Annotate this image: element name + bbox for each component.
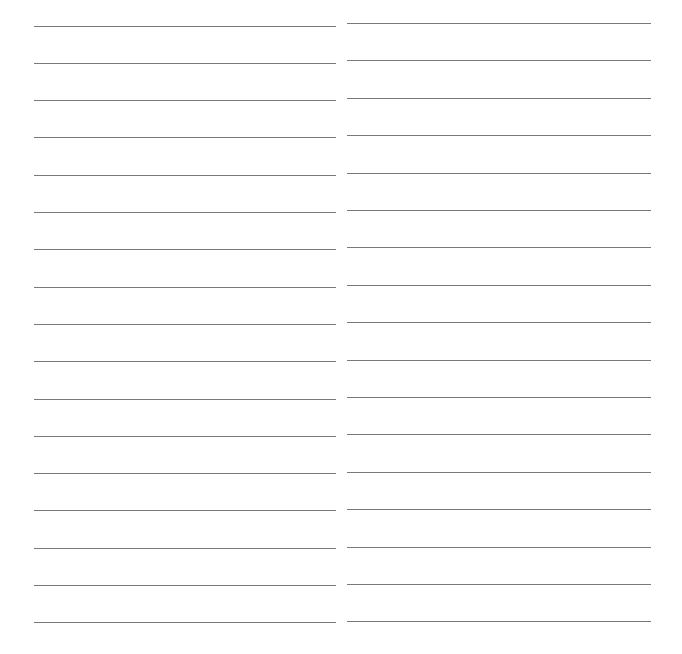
ruled-line: [34, 100, 336, 101]
right-column-rules: [347, 0, 651, 654]
ruled-line: [347, 322, 651, 323]
ruled-line: [347, 547, 651, 548]
ruled-line: [347, 621, 651, 622]
ruled-line: [347, 397, 651, 398]
ruled-line: [347, 247, 651, 248]
ruled-line: [34, 399, 336, 400]
ruled-line: [347, 98, 651, 99]
ruled-line: [347, 285, 651, 286]
ruled-line: [34, 473, 336, 474]
ruled-line: [347, 135, 651, 136]
ruled-line: [34, 548, 336, 549]
ruled-line: [34, 249, 336, 250]
ruled-line: [347, 434, 651, 435]
ruled-line: [34, 26, 336, 27]
ruled-line: [347, 173, 651, 174]
ruled-line: [34, 510, 336, 511]
ruled-line: [34, 622, 336, 623]
ruled-line: [347, 509, 651, 510]
ruled-line: [34, 212, 336, 213]
ruled-line: [34, 585, 336, 586]
ruled-line: [34, 137, 336, 138]
ruled-line: [347, 584, 651, 585]
ruled-line: [34, 324, 336, 325]
ruled-line: [34, 175, 336, 176]
ruled-line: [347, 23, 651, 24]
ruled-line: [347, 360, 651, 361]
ruled-line: [34, 436, 336, 437]
ruled-line: [347, 210, 651, 211]
left-column-rules: [34, 0, 336, 654]
ruled-line: [34, 63, 336, 64]
ruled-line: [347, 472, 651, 473]
ruled-line: [347, 60, 651, 61]
ruled-line: [34, 361, 336, 362]
ruled-line: [34, 287, 336, 288]
